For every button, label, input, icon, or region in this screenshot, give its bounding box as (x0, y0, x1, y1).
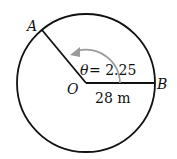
point-label-b: B (156, 76, 167, 92)
circle-diagram: A B O θ = 2.25 28 m (0, 0, 177, 159)
angle-value: = 2.25 (89, 62, 136, 78)
angle-symbol: θ (80, 62, 89, 78)
radius-label: 28 m (95, 90, 131, 106)
point-label-a: A (25, 18, 37, 34)
arrowhead-icon (70, 47, 80, 57)
point-label-o: O (67, 81, 79, 97)
